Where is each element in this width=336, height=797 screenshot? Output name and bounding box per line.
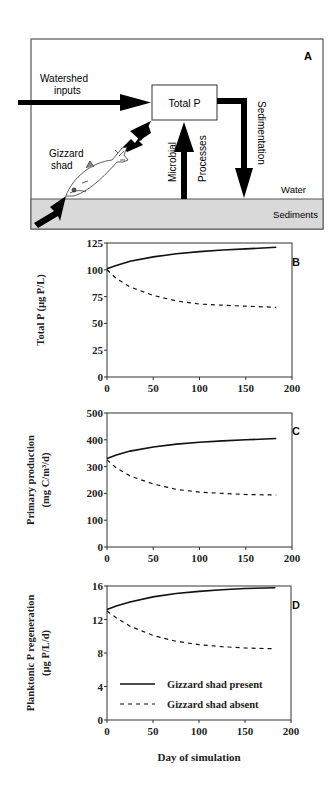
y-tick-label: 8 bbox=[98, 647, 104, 659]
series-absent-line bbox=[107, 611, 275, 649]
watershed-label-2: inputs bbox=[54, 85, 81, 96]
chart-panel-d: 0481216050100150200Planktonic P regenera… bbox=[25, 580, 300, 737]
x-tick-label: 100 bbox=[191, 725, 208, 737]
processes-label: Processes bbox=[197, 135, 208, 182]
x-tick-label: 200 bbox=[283, 725, 300, 737]
x-tick-label: 200 bbox=[284, 552, 301, 564]
y-tick-label: 200 bbox=[87, 487, 104, 499]
x-tick-label: 0 bbox=[104, 382, 110, 394]
series-present-line bbox=[107, 588, 275, 610]
y-tick-label: 75 bbox=[92, 291, 104, 303]
y-tick-label: 500 bbox=[87, 407, 104, 419]
series-present-line bbox=[107, 247, 276, 268]
y-tick-label: 0 bbox=[98, 371, 104, 383]
panel-label-a: A bbox=[304, 50, 312, 62]
y-tick-label: 300 bbox=[87, 461, 104, 473]
y-tick-label: 25 bbox=[92, 344, 104, 356]
y-tick-label: 125 bbox=[87, 237, 104, 249]
x-tick-label: 50 bbox=[148, 382, 160, 394]
microbial-label: Microbial bbox=[167, 142, 178, 182]
y-axis-label: (µg P/L/d) bbox=[40, 629, 52, 676]
diagram-panel-a: A Watershed inputs Total P Sedimentation… bbox=[18, 39, 323, 229]
water-label: Water bbox=[281, 184, 306, 195]
y-tick-label: 100 bbox=[87, 514, 104, 526]
total-p-label: Total P bbox=[168, 97, 200, 109]
gizzard-label-1: Gizzard bbox=[49, 148, 83, 159]
x-tick-label: 150 bbox=[238, 382, 255, 394]
y-tick-label: 0 bbox=[98, 541, 104, 553]
figure: A Watershed inputs Total P Sedimentation… bbox=[0, 0, 336, 797]
panel-label-b: B bbox=[292, 256, 300, 268]
plot-frame bbox=[107, 243, 292, 377]
x-tick-label: 0 bbox=[104, 552, 110, 564]
x-tick-label: 100 bbox=[191, 382, 208, 394]
y-axis-label: Primary production bbox=[25, 435, 36, 525]
legend-absent-label: Gizzard shad absent bbox=[167, 699, 259, 710]
y-tick-label: 50 bbox=[92, 317, 104, 329]
x-tick-label: 150 bbox=[237, 725, 254, 737]
charts: 0255075100125050100150200Total P (µg P/L… bbox=[25, 237, 301, 763]
x-tick-label: 50 bbox=[148, 725, 160, 737]
y-tick-label: 4 bbox=[98, 681, 104, 693]
x-tick-label: 100 bbox=[191, 552, 208, 564]
chart-panel-b: 0255075100125050100150200Total P (µg P/L… bbox=[35, 237, 301, 394]
plot-frame bbox=[107, 413, 292, 547]
x-tick-label: 0 bbox=[104, 725, 110, 737]
x-tick-label: 150 bbox=[238, 552, 255, 564]
y-axis-label: (mg C/m³/d) bbox=[40, 452, 52, 507]
sediments-label: Sediments bbox=[273, 209, 318, 220]
y-tick-label: 0 bbox=[98, 714, 104, 726]
y-axis-label: Total P (µg P/L) bbox=[35, 274, 47, 346]
x-tick-label: 50 bbox=[148, 552, 160, 564]
x-axis-label: Day of simulation bbox=[157, 751, 240, 763]
y-tick-label: 12 bbox=[92, 614, 104, 626]
y-tick-label: 400 bbox=[87, 434, 104, 446]
y-axis-label: Planktonic P regeneration bbox=[25, 595, 36, 712]
x-tick-label: 200 bbox=[284, 382, 301, 394]
y-tick-label: 100 bbox=[87, 264, 104, 276]
y-tick-label: 16 bbox=[92, 580, 104, 592]
panel-label-d: D bbox=[292, 599, 300, 611]
series-present-line bbox=[107, 439, 276, 459]
panel-label-c: C bbox=[292, 425, 300, 437]
legend: Gizzard shad presentGizzard shad absent bbox=[120, 679, 263, 710]
series-absent-line bbox=[107, 460, 276, 495]
gizzard-label-2: shad bbox=[51, 160, 73, 171]
series-absent-line bbox=[107, 270, 276, 308]
sedimentation-label: Sedimentation bbox=[256, 101, 267, 165]
watershed-label-1: Watershed bbox=[40, 73, 88, 84]
legend-present-label: Gizzard shad present bbox=[167, 679, 263, 690]
chart-panel-c: 0100200300400500050100150200Primary prod… bbox=[25, 407, 301, 564]
